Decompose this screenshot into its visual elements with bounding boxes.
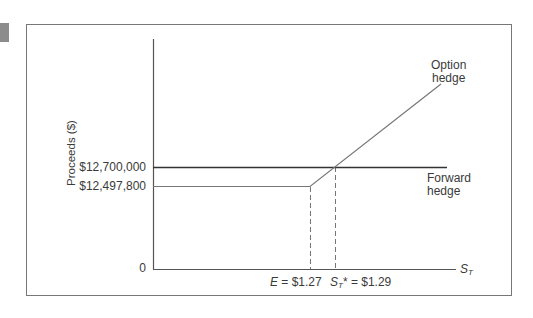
x-tick-strike-var: E — [270, 275, 278, 289]
option-hedge-label: Option hedge — [431, 59, 466, 85]
x-tick-breakeven-var: S — [330, 275, 338, 289]
y-tick-high: $12,700,000 — [60, 161, 146, 174]
x-tick-strike-value: = $1.27 — [278, 275, 322, 289]
x-axis-var: S — [460, 262, 468, 276]
x-axis-label: ST — [460, 263, 473, 279]
forward-hedge-label-line2: hedge — [427, 185, 471, 198]
forward-hedge-label: Forward hedge — [427, 172, 471, 198]
option-hedge-line — [153, 84, 441, 187]
y-axis-label: Proceeds ($) — [65, 120, 77, 186]
y-tick-zero: 0 — [130, 262, 146, 275]
x-tick-breakeven: ST* = $1.29 — [330, 276, 391, 292]
y-tick-low: $12,497,800 — [60, 180, 146, 193]
chart-plot-area — [0, 0, 533, 318]
x-tick-breakeven-value: * = $1.29 — [343, 275, 391, 289]
x-tick-strike: E = $1.27 — [270, 276, 322, 289]
option-hedge-label-line2: hedge — [431, 72, 466, 85]
x-axis-sub: T — [468, 268, 473, 277]
